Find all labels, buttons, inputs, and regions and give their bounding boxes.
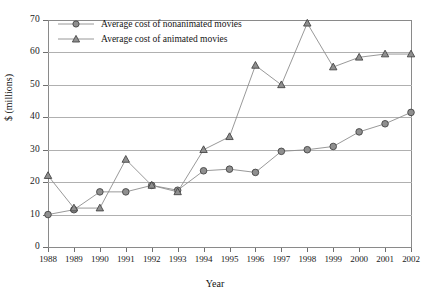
y-tick-label: 70: [6, 14, 40, 24]
data-point-circle: [356, 129, 363, 136]
data-point-circle: [304, 146, 311, 153]
data-point-triangle: [96, 204, 103, 211]
data-point-circle: [330, 143, 337, 150]
legend-item-animated: Average cost of animated movies: [57, 31, 272, 46]
x-tick-mark: [255, 248, 256, 252]
y-tick-label: 10: [6, 209, 40, 219]
data-point-circle: [382, 120, 389, 127]
legend-label-animated: Average cost of animated movies: [95, 34, 227, 44]
data-point-triangle: [226, 133, 233, 140]
legend-circle-marker-icon: [57, 17, 95, 31]
data-point-triangle: [122, 156, 129, 163]
x-tick-mark: [74, 248, 75, 252]
data-point-circle: [200, 167, 207, 174]
data-point-triangle: [44, 172, 51, 179]
data-point-circle: [226, 166, 233, 173]
chart-figure: 010203040506070 198819891990199119921993…: [0, 0, 430, 302]
series-line: [48, 112, 411, 214]
data-point-triangle: [252, 62, 259, 69]
y-tick-label: 20: [6, 176, 40, 186]
x-axis-label: Year: [0, 278, 430, 289]
plot-area: 010203040506070 198819891990199119921993…: [48, 20, 412, 248]
data-point-triangle: [304, 19, 311, 26]
series-layer: [48, 20, 412, 248]
x-tick-mark: [126, 248, 127, 252]
legend-item-nonanimated: Average cost of nonanimated movies: [57, 16, 272, 31]
x-tick-mark: [359, 248, 360, 252]
data-point-triangle: [200, 146, 207, 153]
x-tick-mark: [178, 248, 179, 252]
chart-legend: Average cost of nonanimated movies Avera…: [57, 14, 272, 48]
data-point-circle: [408, 109, 415, 116]
data-point-circle: [278, 148, 285, 155]
x-tick-mark: [281, 248, 282, 252]
data-point-circle: [252, 169, 259, 176]
data-point-circle: [122, 189, 129, 196]
x-tick-mark: [307, 248, 308, 252]
y-tick-label: 0: [6, 241, 40, 251]
x-tick-mark: [48, 248, 49, 252]
x-tick-mark: [230, 248, 231, 252]
series-line: [48, 23, 411, 208]
x-tick-mark: [152, 248, 153, 252]
x-tick-mark: [100, 248, 101, 252]
data-point-triangle: [381, 50, 388, 57]
data-point-circle: [45, 211, 52, 218]
x-tick-mark: [204, 248, 205, 252]
data-point-triangle: [278, 81, 285, 88]
data-point-circle: [97, 189, 104, 196]
x-tick-label: 2002: [394, 254, 428, 264]
legend-triangle-marker-icon: [57, 32, 95, 46]
data-point-triangle: [407, 50, 414, 57]
x-tick-mark: [333, 248, 334, 252]
x-tick-mark: [385, 248, 386, 252]
legend-label-nonanimated: Average cost of nonanimated movies: [95, 19, 242, 29]
x-tick-mark: [411, 248, 412, 252]
y-axis-label: $ (millions): [3, 38, 14, 158]
